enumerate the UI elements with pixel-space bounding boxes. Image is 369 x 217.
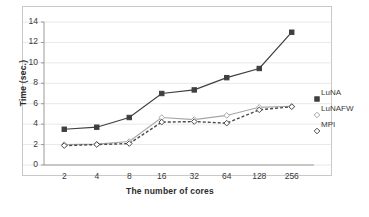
legend-label-luna: LuNA [321, 88, 341, 97]
legend-item-lunafw[interactable]: LuNAFW [313, 100, 369, 116]
data-point-marker [127, 115, 131, 119]
data-point-marker [314, 128, 320, 134]
gridlines [23, 22, 331, 165]
y-tick-label: 2 [16, 139, 38, 149]
data-point-marker [314, 112, 320, 118]
x-tick-label: 2 [49, 171, 79, 181]
chart-legend: LuNA LuNAFW MPI [313, 84, 369, 132]
x-tick-label: 64 [212, 171, 242, 181]
y-tick-label: 8 [16, 77, 38, 87]
data-point-marker [192, 88, 196, 92]
data-point-marker [160, 91, 164, 95]
data-point-marker [257, 66, 261, 70]
data-point-marker [224, 120, 230, 126]
data-point-marker [290, 30, 294, 34]
x-tick-label: 4 [82, 171, 112, 181]
series-layer [61, 30, 294, 148]
legend-label-lunafw: LuNAFW [321, 104, 353, 113]
x-tick-label: 16 [147, 171, 177, 181]
legend-key-luna [313, 89, 320, 96]
axis-lines [41, 22, 314, 165]
x-tick-label: 128 [244, 171, 274, 181]
x-tick-label: 32 [179, 171, 209, 181]
legend-item-mpi[interactable]: MPI [313, 116, 369, 132]
y-tick-label: 12 [16, 36, 38, 46]
legend-item-luna[interactable]: LuNA [313, 84, 369, 100]
y-tick-label: 0 [16, 159, 38, 169]
x-tick-label: 256 [277, 171, 307, 181]
y-tick-label: 14 [16, 16, 38, 26]
data-point-marker [315, 96, 319, 100]
data-point-marker [225, 75, 229, 79]
series-line-luna [64, 32, 292, 129]
data-point-marker [62, 127, 66, 131]
legend-key-lunafw [313, 105, 320, 112]
line-chart: Time (sec.) 02468101214 248163264128256 … [0, 0, 369, 217]
legend-key-mpi [313, 121, 320, 128]
y-tick-label: 10 [16, 57, 38, 67]
x-axis-title: The number of cores [40, 186, 300, 196]
y-tick-label: 4 [16, 118, 38, 128]
x-tick-label: 8 [114, 171, 144, 181]
data-point-marker [224, 113, 230, 119]
legend-label-mpi: MPI [321, 120, 335, 129]
y-tick-label: 6 [16, 98, 38, 108]
data-point-marker [95, 125, 99, 129]
